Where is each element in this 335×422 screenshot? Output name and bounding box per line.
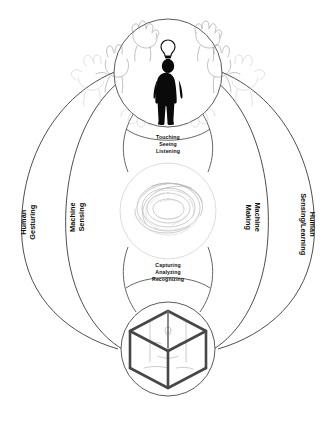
arc-lens-lower-left	[123, 247, 136, 312]
inner-label-line-1: Touching	[141, 134, 195, 141]
arc-label-line-1: Machine	[253, 182, 262, 252]
arc-label-line-1: Human	[19, 187, 28, 257]
inner-label-line-3: Recognizing	[138, 276, 198, 283]
arc-label-line-2: Making	[244, 182, 253, 252]
computation-circle-outline	[120, 163, 216, 259]
inner-label-line-2: Analyzing	[138, 269, 198, 276]
diagram-canvas	[0, 0, 335, 422]
inner-label-line-2: Seeing	[141, 141, 195, 148]
label-human-sensing-learning: Human Sensing/Learning	[299, 181, 317, 267]
arc-label-line-2: Sensing	[77, 182, 86, 252]
arc-lens-upper-left	[123, 110, 136, 172]
label-touching-seeing-listening: Touching Seeing Listening	[141, 134, 195, 156]
arc-lens-lower-right	[200, 247, 213, 312]
label-machine-sensing: Machine Sensing	[68, 182, 86, 252]
diagram-root: Touching Seeing Listening Capturing Anal…	[0, 0, 335, 422]
arc-lens-upper-right	[200, 110, 213, 172]
inner-label-line-3: Listening	[141, 148, 195, 155]
label-machine-making: Machine Making	[244, 182, 262, 252]
arc-label-line-2: Gesturing	[28, 187, 37, 257]
label-human-gesturing: Human Gesturing	[19, 187, 37, 257]
label-capturing-analyzing-recognizing: Capturing Analyzing Recognizing	[138, 262, 198, 284]
node-machine[interactable]	[121, 302, 215, 396]
arc-label-line-1: Human	[308, 181, 317, 267]
arc-label-line-2: Sensing/Learning	[299, 181, 308, 267]
inner-label-line-1: Capturing	[138, 262, 198, 269]
arc-label-line-1: Machine	[68, 182, 77, 252]
node-computation[interactable]	[120, 163, 216, 259]
node-human[interactable]	[71, 19, 264, 127]
